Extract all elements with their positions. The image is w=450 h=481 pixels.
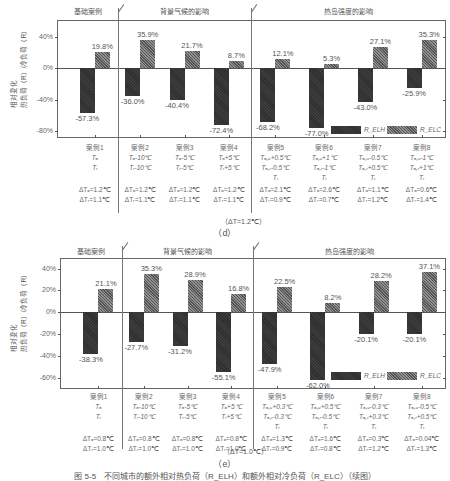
x-tick	[422, 386, 423, 389]
y-axis-label-line: 热负荷（R）/冷负荷（R）	[18, 271, 28, 352]
bar-r-elc	[325, 303, 340, 312]
x-tick	[373, 135, 374, 138]
delta-t-note: （ΔT=1.0℃）	[223, 446, 268, 456]
bar-value-label-neg: -57.3%	[67, 114, 107, 123]
y-tick	[55, 68, 58, 69]
y-tick-label: -20%	[26, 330, 56, 337]
bar-value-label-pos: 22.5%	[265, 277, 305, 286]
bar-value-label-pos: 19.8%	[82, 42, 122, 51]
x-tick	[422, 135, 423, 138]
bar-r-elc	[188, 280, 203, 312]
bar-r-elh	[407, 68, 422, 88]
group-title: 基础案例	[51, 246, 131, 256]
x-tick	[98, 386, 99, 389]
bar-r-elh	[80, 68, 95, 113]
legend-label-r-elc: R_ELC	[420, 126, 441, 133]
case-label: 案例8	[390, 143, 450, 153]
y-tick-right	[443, 334, 446, 335]
legend-label-r-elc: R_ELC	[420, 372, 441, 379]
bar-value-label-pos: 27.1%	[360, 37, 400, 46]
legend-swatch-r-elc	[387, 372, 417, 380]
bar-r-elc	[185, 51, 200, 68]
separator-slash	[251, 4, 258, 13]
bar-r-elc	[374, 281, 389, 312]
bar-r-elh	[262, 312, 277, 364]
bar-r-elh	[125, 68, 140, 96]
bar-value-label-neg: -68.2%	[248, 123, 288, 132]
y-tick	[58, 290, 61, 291]
bar-r-elh	[170, 68, 185, 100]
x-tick	[324, 135, 325, 138]
bar-value-label-neg: -20.1%	[346, 335, 386, 344]
x-tick	[231, 386, 232, 389]
bar-value-label-pos: 16.8%	[219, 284, 259, 293]
figure-caption: 图 5-5 不同城市的额外相对热负荷（R_ELH）和额外相对冷负荷（R_ELC）…	[0, 470, 450, 481]
subfigure-caption: （d）	[195, 226, 255, 239]
bar-value-label-pos: 21.1%	[86, 279, 126, 288]
y-tick-right	[443, 100, 446, 101]
bar-value-label-pos: 21.7%	[172, 41, 212, 50]
bar-r-elh	[309, 68, 324, 128]
y-axis-label-line: 热负荷（R）/冷负荷（R）	[18, 27, 28, 108]
bar-r-elc	[422, 272, 437, 312]
bar-r-elc	[229, 61, 244, 68]
group-title: 基础案例	[48, 6, 128, 16]
y-tick	[55, 131, 58, 132]
bar-value-label-pos: 35.3%	[409, 30, 449, 39]
y-tick-right	[443, 131, 446, 132]
bar-r-elc	[324, 64, 339, 68]
bar-r-elc	[95, 52, 110, 68]
x-tick	[140, 135, 141, 138]
case-label: ΔTₐ=0.6℃	[390, 185, 450, 195]
bar-value-label-neg: -72.4%	[201, 126, 241, 135]
y-tick-label: 20%	[26, 286, 56, 293]
bar-value-label-neg: -47.9%	[250, 365, 290, 374]
x-tick	[325, 386, 326, 389]
bar-r-elc	[275, 59, 290, 68]
bar-value-label-pos: 28.2%	[361, 271, 401, 280]
y-tick	[58, 334, 61, 335]
case-label: Tₐ,ᵣ+1℃	[390, 163, 450, 173]
y-tick-label: -40%	[26, 352, 56, 359]
case-label: Tᵣ	[390, 173, 450, 183]
bar-value-label-neg: -31.2%	[160, 347, 200, 356]
case-label: Tᵣ	[390, 422, 450, 432]
bar-value-label-pos: 8.2%	[313, 293, 353, 302]
y-tick	[55, 100, 58, 101]
separator-slash	[253, 242, 260, 251]
bar-r-elc	[98, 289, 113, 312]
y-axis-label-line: 相对变化	[8, 271, 18, 352]
legend-swatch-r-elc	[387, 126, 417, 134]
y-tick	[58, 312, 61, 313]
bar-r-elc	[140, 40, 155, 68]
y-axis-label: 相对变化热负荷（R）/冷负荷（R）	[8, 27, 28, 108]
y-tick	[58, 269, 61, 270]
y-tick-label: 40%	[26, 265, 56, 272]
bar-r-elh	[173, 312, 188, 346]
bar-r-elh	[83, 312, 98, 354]
bar-value-label-pos: 28.9%	[175, 270, 215, 279]
x-tick	[185, 135, 186, 138]
bar-value-label-neg: -62.0%	[298, 381, 338, 390]
y-tick-label: -80%	[23, 127, 53, 134]
x-tick	[229, 135, 230, 138]
group-title: 背景气候的影响	[145, 6, 225, 16]
bar-value-label-neg: -38.3%	[71, 355, 111, 364]
bar-value-label-neg: -27.7%	[116, 343, 156, 352]
case-label: ΔTᵣ=1.4℃	[390, 195, 450, 205]
group-title: 热岛强度的影响	[310, 246, 390, 256]
group-title: 热岛强度的影响	[309, 6, 389, 16]
bar-value-label-pos: 37.1%	[409, 262, 449, 271]
bar-value-label-neg: -20.1%	[394, 335, 434, 344]
x-tick	[277, 386, 278, 389]
bar-r-elh	[214, 68, 229, 125]
bar-value-label-pos: 8.7%	[216, 51, 256, 60]
y-tick-right	[443, 290, 446, 291]
bar-r-elh	[216, 312, 231, 372]
y-tick-right	[443, 378, 446, 379]
case-label: 案例8	[390, 392, 450, 402]
y-axis-label-line: 相对变化	[8, 27, 18, 108]
bar-r-elh	[358, 68, 373, 102]
bar-value-label-pos: 5.3%	[312, 54, 352, 63]
case-label: ΔTₐ=0.04℃	[390, 434, 450, 444]
